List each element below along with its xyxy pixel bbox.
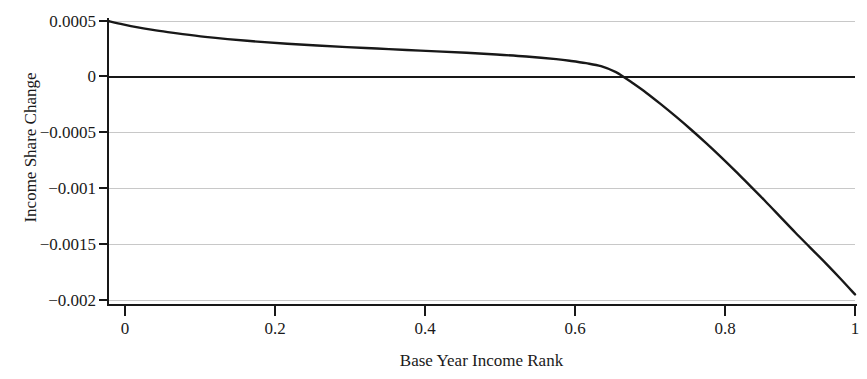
y-tick-label--0.001: −0.001 [48,180,96,197]
x-axis-title: Base Year Income Rank [108,352,855,369]
y-tick-mark--0.0015 [99,243,108,245]
y-tick-mark--0.002 [99,299,108,301]
y-tick-label-group: 0.0005 0 −0.0005 −0.001 −0.0015 −0.002 [0,0,96,379]
x-tick-label-1: 1 [851,320,860,337]
y-tick-label--0.002: −0.002 [48,292,96,309]
x-tick-mark-1 [854,306,856,316]
chart-container: 0.0005 0 −0.0005 −0.001 −0.0015 −0.002 0… [0,0,867,379]
x-tick-mark-0 [124,306,126,316]
y-tick-label-0: 0 [88,68,97,85]
y-tick-label--0.0015: −0.0015 [40,236,96,253]
x-axis-line [107,304,857,306]
y-tick-label-0.0005: 0.0005 [49,13,96,30]
x-tick-label-0.8: 0.8 [714,320,735,337]
y-tick-label--0.0005: −0.0005 [40,124,96,141]
x-tick-label-0.6: 0.6 [564,320,585,337]
y-axis-title: Income Share Change [22,28,39,268]
y-axis-line [107,18,109,306]
x-tick-label-0: 0 [121,320,130,337]
x-tick-mark-0.8 [724,306,726,316]
x-tick-mark-0.6 [574,306,576,316]
gridline--0.002 [108,300,855,301]
data-curve-svg [108,21,855,300]
y-tick-mark-0 [99,75,108,77]
x-tick-label-0.2: 0.2 [264,320,285,337]
x-tick-label-0.4: 0.4 [414,320,435,337]
plot-area [108,21,855,300]
y-tick-mark--0.0005 [99,131,108,133]
x-tick-mark-0.2 [274,306,276,316]
x-tick-mark-0.4 [424,306,426,316]
y-tick-mark-0.0005 [99,20,108,22]
y-tick-mark--0.001 [99,187,108,189]
series-line-income-share-change [108,21,855,294]
